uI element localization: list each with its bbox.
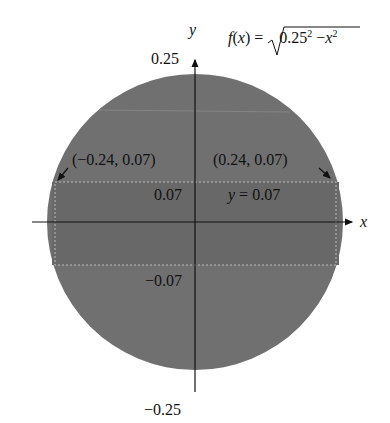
function-label: f(x) = 0.252 −x2 <box>228 29 337 46</box>
tick-y-top: 0.25 <box>151 51 179 67</box>
point-right-label: (0.24, 0.07) <box>213 152 288 168</box>
tick-y-pos: 0.07 <box>154 187 182 203</box>
y-axis-label: y <box>189 22 196 38</box>
tick-y-neg: −0.07 <box>145 273 182 289</box>
point-left-label: (−0.24, 0.07) <box>72 152 156 168</box>
x-axis-label: x <box>360 214 367 230</box>
tick-y-bottom: −0.25 <box>144 402 181 418</box>
circle-diagram <box>0 0 390 423</box>
line-label: y = 0.07 <box>228 187 280 203</box>
